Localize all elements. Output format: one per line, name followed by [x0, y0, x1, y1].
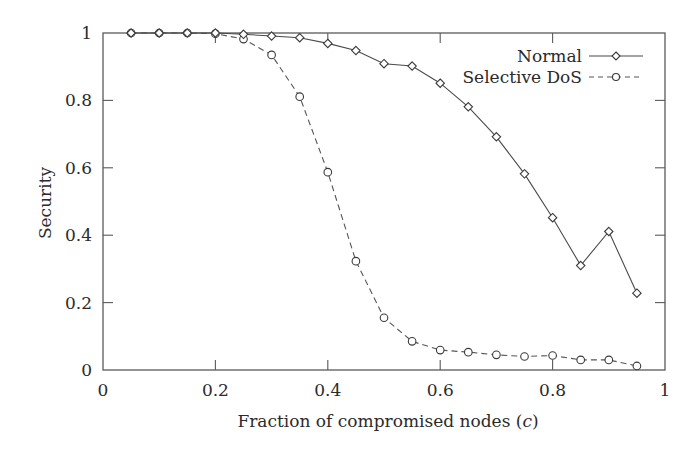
- legend-entry-selective-dos: Selective DoS: [462, 67, 643, 87]
- circle-marker-icon: [465, 348, 473, 356]
- circle-marker-icon: [549, 352, 557, 360]
- diamond-marker-icon: [324, 39, 332, 47]
- x-tick-label: 0.4: [314, 380, 341, 400]
- diamond-marker-icon: [296, 34, 304, 42]
- y-axis-label: Security: [35, 167, 55, 240]
- diamond-marker-icon: [408, 62, 416, 70]
- x-axis-label-close: ): [532, 411, 539, 431]
- x-tick-label: 1: [660, 380, 671, 400]
- circle-marker-icon: [605, 356, 613, 364]
- legend-diamond-icon: [612, 52, 620, 60]
- x-axis-label-main: Fraction of compromised nodes (: [237, 411, 522, 431]
- circle-marker-icon: [408, 338, 416, 346]
- legend-label-normal: Normal: [517, 46, 582, 66]
- x-tick-label: 0: [98, 380, 109, 400]
- circle-marker-icon: [436, 346, 444, 354]
- x-tick-label: 0.2: [202, 380, 229, 400]
- circle-marker-icon: [352, 257, 360, 265]
- legend-circle-icon: [613, 74, 620, 81]
- x-tick-label: 0.8: [539, 380, 566, 400]
- circle-marker-icon: [324, 168, 332, 176]
- circle-marker-icon: [521, 353, 529, 361]
- diamond-marker-icon: [352, 46, 360, 54]
- y-tick-label: 0: [81, 360, 92, 380]
- y-tick-label: 1: [81, 23, 92, 43]
- circle-marker-icon: [380, 314, 388, 322]
- x-axis-label: Fraction of compromised nodes (c): [237, 411, 538, 431]
- circle-marker-icon: [296, 93, 304, 101]
- circle-marker-icon: [633, 362, 641, 370]
- circle-marker-icon: [493, 351, 501, 359]
- circle-marker-icon: [577, 356, 585, 364]
- x-tick-label: 0.6: [427, 380, 454, 400]
- y-tick-label: 0.8: [65, 90, 92, 110]
- legend-entry-normal: Normal: [517, 46, 643, 66]
- circle-marker-icon: [268, 51, 276, 59]
- diamond-marker-icon: [548, 213, 556, 221]
- security-line-chart: 00.20.40.60.8100.20.40.60.81 Security Fr…: [0, 0, 699, 459]
- diamond-marker-icon: [633, 289, 641, 297]
- legend-label-selective-dos: Selective DoS: [462, 67, 582, 87]
- x-axis-label-var: c: [522, 411, 532, 431]
- diamond-marker-icon: [380, 59, 388, 67]
- y-tick-label: 0.4: [65, 225, 92, 245]
- y-tick-label: 0.6: [65, 158, 92, 178]
- legend: Normal Selective DoS: [462, 46, 643, 87]
- y-tick-label: 0.2: [65, 293, 92, 313]
